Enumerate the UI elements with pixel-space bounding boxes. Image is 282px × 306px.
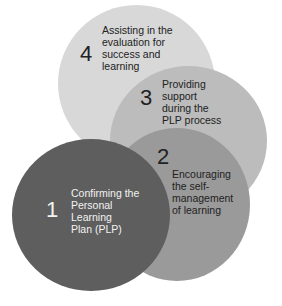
step-4-label: Assisting in the evaluation for success … xyxy=(102,24,173,72)
step-1-number: 1 xyxy=(46,199,58,221)
step-3-label: Providing support during the PLP process xyxy=(162,78,221,126)
step-3-number: 3 xyxy=(140,87,152,109)
cycle-diagram: 4 Assisting in the evaluation for succes… xyxy=(0,0,282,306)
step-1-label: Confirming the Personal Learning Plan (P… xyxy=(71,187,139,235)
step-2-label: Encouraging the self- management of lear… xyxy=(172,168,233,216)
step-4-number: 4 xyxy=(80,43,92,65)
step-2-number: 2 xyxy=(157,146,169,168)
